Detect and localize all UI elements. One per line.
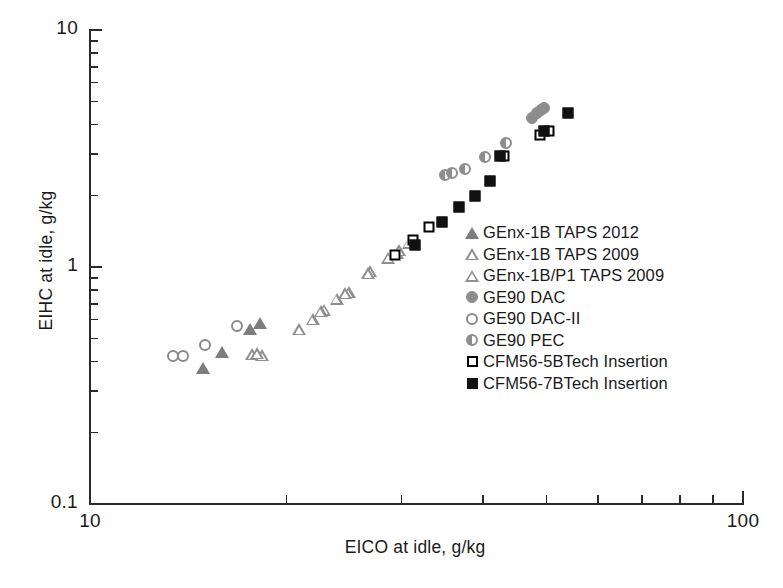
marker-square-filled-icon	[410, 239, 421, 250]
y-tick-major	[91, 29, 102, 31]
legend-label: GE90 PEC	[483, 331, 565, 350]
legend-item[interactable]: GE90 DAC	[461, 287, 668, 309]
x-tick-label: 10	[55, 510, 125, 532]
scatter-plot-figure: 1010.1 10100 EIHC at idle, g/kg EICO at …	[0, 0, 783, 588]
y-tick-minor	[91, 303, 98, 305]
y-tick-label: 10	[18, 17, 78, 39]
y-tick-minor	[91, 101, 98, 103]
x-tick-major	[89, 491, 91, 503]
x-axis-title: EICO at idle, g/kg	[265, 537, 565, 558]
x-tick-minor	[597, 495, 599, 503]
legend-marker	[461, 378, 483, 389]
legend-label: GE90 DAC	[483, 288, 565, 307]
legend-marker	[461, 291, 483, 303]
y-tick-minor	[91, 319, 98, 321]
marker-triangle-open-icon	[465, 270, 479, 282]
x-tick-minor	[712, 495, 714, 503]
marker-square-filled-icon	[494, 150, 505, 161]
y-tick-minor	[91, 40, 98, 42]
legend: GEnx-1B TAPS 2012GEnx-1B TAPS 2009GEnx-1…	[461, 222, 668, 394]
x-tick-minor	[546, 495, 548, 503]
marker-square-open-icon	[467, 356, 478, 367]
legend-label: GEnx-1B TAPS 2009	[483, 245, 639, 264]
y-tick-minor	[91, 277, 98, 279]
legend-marker	[461, 334, 483, 346]
y-axis-title: EIHC at idle, g/kg	[36, 111, 57, 411]
legend-marker	[461, 248, 483, 260]
marker-triangle-open-icon	[465, 248, 479, 260]
y-tick-minor	[91, 361, 98, 363]
marker-circle-filled-icon	[466, 291, 478, 303]
marker-triangle-open-icon	[361, 267, 375, 296]
legend-marker	[461, 270, 483, 282]
x-tick-major	[742, 491, 744, 503]
marker-square-open-icon	[389, 250, 400, 261]
marker-square-filled-icon	[485, 176, 496, 187]
marker-triangle-filled-icon	[196, 362, 210, 374]
legend-label: CFM56-7BTech Insertion	[483, 374, 668, 393]
y-tick-minor	[91, 124, 98, 126]
marker-triangle-filled-icon	[215, 346, 229, 358]
marker-square-open-icon	[424, 222, 435, 233]
marker-triangle-open-icon	[292, 323, 306, 352]
marker-circle-filled-icon	[538, 102, 550, 114]
marker-square-filled-icon	[469, 190, 480, 201]
y-tick-minor	[91, 82, 98, 84]
legend-label: GE90 DAC-II	[483, 309, 580, 328]
marker-circle-open-icon	[177, 350, 189, 362]
legend-item[interactable]: GEnx-1B/P1 TAPS 2009	[461, 265, 668, 287]
legend-item[interactable]: GEnx-1B TAPS 2012	[461, 222, 668, 244]
marker-circle-open-icon	[199, 339, 211, 351]
y-tick-major	[91, 266, 102, 268]
y-tick-minor	[91, 52, 98, 54]
marker-triangle-filled-icon	[465, 227, 479, 239]
x-tick-minor	[401, 495, 403, 503]
legend-item[interactable]: CFM56-7BTech Insertion	[461, 373, 668, 395]
y-tick-minor	[91, 153, 98, 155]
marker-square-filled-icon	[467, 378, 478, 389]
y-tick-minor	[91, 338, 98, 340]
y-tick-minor	[91, 432, 98, 434]
legend-label: CFM56-5BTech Insertion	[483, 352, 668, 371]
marker-square-filled-icon	[563, 108, 574, 119]
y-tick-minor	[91, 390, 98, 392]
legend-item[interactable]: GE90 DAC-II	[461, 308, 668, 330]
x-tick-minor	[679, 495, 681, 503]
marker-square-filled-icon	[437, 216, 448, 227]
marker-square-filled-icon	[538, 125, 549, 136]
marker-triangle-open-icon	[314, 305, 328, 334]
marker-square-filled-icon	[454, 201, 465, 212]
marker-circle-half-icon	[479, 151, 491, 163]
marker-triangle-open-icon	[338, 287, 352, 316]
marker-circle-open-icon	[231, 320, 243, 332]
marker-circle-half-icon	[446, 167, 458, 179]
y-tick-major	[91, 503, 102, 505]
marker-circle-half-icon	[459, 163, 471, 175]
x-axis-line	[89, 503, 744, 505]
marker-circle-half-icon	[466, 334, 478, 346]
legend-label: GEnx-1B TAPS 2012	[483, 223, 639, 242]
legend-item[interactable]: GE90 PEC	[461, 330, 668, 352]
x-tick-minor	[641, 495, 643, 503]
marker-triangle-open-icon	[250, 347, 264, 376]
y-tick-minor	[91, 195, 98, 197]
legend-marker	[461, 313, 483, 325]
marker-triangle-filled-icon	[253, 317, 267, 329]
y-tick-minor	[91, 66, 98, 68]
legend-label: GEnx-1B/P1 TAPS 2009	[483, 266, 664, 285]
x-tick-minor	[482, 495, 484, 503]
x-tick-minor	[286, 495, 288, 503]
legend-item[interactable]: CFM56-5BTech Insertion	[461, 351, 668, 373]
legend-item[interactable]: GEnx-1B TAPS 2009	[461, 244, 668, 266]
marker-circle-half-icon	[500, 137, 512, 149]
legend-marker	[461, 227, 483, 239]
y-tick-minor	[91, 289, 98, 291]
x-tick-label: 100	[708, 510, 778, 532]
legend-marker	[461, 356, 483, 367]
marker-circle-open-icon	[466, 313, 478, 325]
